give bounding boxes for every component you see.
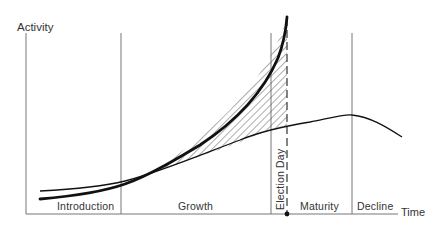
election-day-label: Election Day xyxy=(275,148,286,211)
phase-label-decline: Decline xyxy=(357,201,393,212)
y-axis-label: Activity xyxy=(17,22,53,34)
phase-label-introduction: Introduction xyxy=(57,201,114,212)
life-cycle-diagram: Activity Introduction Growth Maturity De… xyxy=(0,0,441,225)
election-day-marker-dot xyxy=(285,212,290,217)
x-axis-label: Time xyxy=(401,207,425,218)
phase-label-maturity: Maturity xyxy=(300,201,339,212)
diagram-canvas xyxy=(0,0,441,225)
phase-label-growth: Growth xyxy=(178,201,213,212)
shaded-gap-region xyxy=(140,10,290,180)
